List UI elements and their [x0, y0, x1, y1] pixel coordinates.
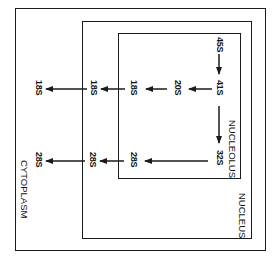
node-18s-nucleus: 18S — [89, 80, 99, 95]
node-45s: 45S — [215, 37, 225, 52]
node-41s: 41S — [215, 80, 225, 95]
node-18s-cytoplasm: 18S — [34, 80, 44, 95]
node-28s-nucleus: 28S — [88, 152, 98, 167]
node-18s-nucleolus: 18S — [129, 80, 139, 95]
nucleus-label: NUCLEUS — [237, 193, 248, 238]
node-20s: 20S — [173, 80, 183, 95]
cytoplasm-label: CYTOPLASM — [19, 160, 30, 218]
nucleolus-label: NUCLEOLUS — [227, 120, 238, 178]
node-28s-cytoplasm: 28S — [34, 152, 44, 167]
node-32s: 32S — [215, 150, 225, 165]
node-28s-nucleolus: 28S — [129, 152, 139, 167]
